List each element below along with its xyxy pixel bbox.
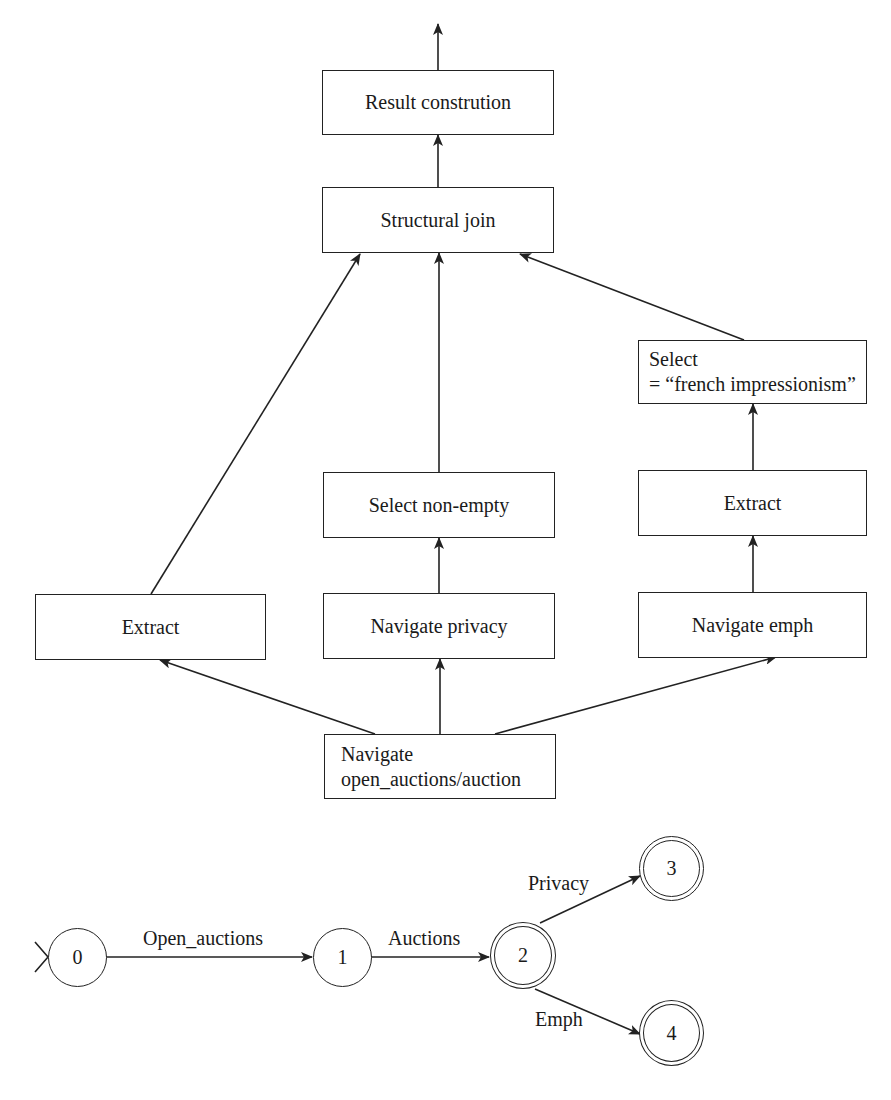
edge-extract-left-join	[151, 254, 360, 594]
node-label: Select non-empty	[369, 494, 510, 517]
transition-label-emph: Emph	[535, 1008, 583, 1031]
node-label: Structural join	[381, 209, 496, 232]
node-label-line2: open_auctions/auction	[341, 767, 521, 792]
state-1: 1	[313, 928, 372, 987]
node-navigate-root: Navigate open_auctions/auction	[324, 734, 556, 799]
transition-label-auctions: Auctions	[388, 927, 460, 950]
diagram-canvas: Result constrution Structural join Selec…	[0, 0, 891, 1100]
node-extract-right: Extract	[638, 470, 867, 536]
node-label-line1: Select	[649, 347, 698, 372]
transition-label-privacy: Privacy	[528, 872, 589, 895]
edge-root-navemph	[495, 657, 776, 734]
state-2-final: 2	[490, 922, 556, 989]
node-label-line1: Navigate	[341, 742, 413, 767]
node-label: Result constrution	[365, 91, 511, 114]
node-label: Navigate emph	[692, 614, 814, 637]
state-3-final: 3	[639, 836, 704, 901]
node-label: Extract	[724, 492, 782, 515]
state-0: 0	[48, 928, 107, 987]
state-label: 2	[518, 944, 528, 967]
node-label-line2: = “french impressionism”	[649, 372, 856, 397]
node-extract-left: Extract	[35, 594, 266, 660]
node-result-construction: Result constrution	[322, 70, 554, 135]
state-label: 4	[667, 1022, 677, 1045]
node-navigate-privacy: Navigate privacy	[323, 593, 555, 659]
node-label: Navigate privacy	[370, 615, 507, 638]
state-label: 0	[73, 946, 83, 969]
edge-selectfrench-join	[520, 254, 744, 340]
start-marker	[35, 942, 48, 972]
transition-label-open-auctions: Open_auctions	[143, 927, 263, 950]
node-select-french: Select = “french impressionism”	[638, 340, 867, 404]
state-label: 1	[338, 946, 348, 969]
cropped-caption-strip	[0, 1093, 891, 1100]
node-structural-join: Structural join	[322, 187, 554, 253]
state-4-final: 4	[639, 1000, 704, 1066]
state-label: 3	[667, 857, 677, 880]
node-select-nonempty: Select non-empty	[323, 472, 555, 538]
edge-root-extract-left	[160, 660, 375, 734]
node-label: Extract	[122, 616, 180, 639]
node-navigate-emph: Navigate emph	[638, 592, 867, 658]
